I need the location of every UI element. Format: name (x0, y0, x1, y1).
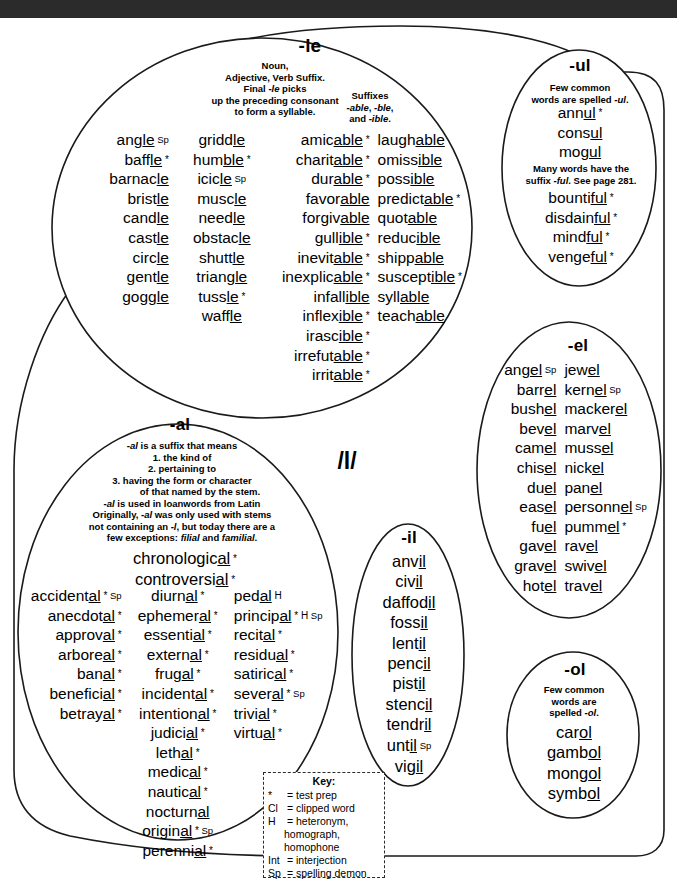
word-entry: carol (515, 722, 633, 742)
word-entry: marvel (564, 419, 662, 439)
word-entry: castle (82, 228, 169, 248)
word-column: amicable *charitable *durable *favorable… (271, 130, 374, 385)
word-entry: triangle (177, 267, 267, 287)
word-entry: lethal * (130, 743, 226, 763)
key-legend: Key: *=test prepCl=clipped wordH=heteron… (263, 772, 385, 878)
group-note-al: -al is a suffix that means1. the kind of… (42, 440, 322, 544)
word-entry: personnel Sp (564, 497, 662, 517)
key-row: homograph, (268, 828, 367, 841)
word-entry: until Sp (350, 735, 468, 756)
group-note-le-suffixes: Suffixes-able, -ble,and -ible. (300, 90, 440, 125)
word-entry: chronological * (60, 548, 310, 569)
word-column: diurnal *ephemeral *essential *external … (126, 586, 230, 860)
word-column: jewelkernel Spmackerelmarvelmusselnickel… (560, 360, 666, 595)
word-entry: susceptible * (378, 267, 474, 287)
word-entry: disdainful * (497, 208, 665, 228)
word-list-ul-ful: bountiful *disdainful *mindful *vengeful… (497, 188, 665, 266)
group-note-ol: Few commonwords arespelled -ol. (515, 684, 633, 719)
word-entry: lentil (350, 633, 468, 653)
word-entry: charitable * (275, 150, 370, 170)
word-entry: possible (378, 169, 474, 189)
word-entry: betrayal * (18, 704, 122, 724)
word-entry: banal * (18, 664, 122, 684)
word-entry: laughable (378, 130, 474, 150)
word-entry: approval * (18, 625, 122, 645)
word-entry: bevel (470, 419, 556, 439)
word-entry: duel (470, 478, 556, 498)
key-row: *=test prep (268, 789, 367, 802)
key-row: H=heteronym, (268, 815, 367, 828)
word-entry: quotable (378, 208, 474, 228)
word-entry: mongol (515, 763, 633, 783)
group-title-ol: -ol (530, 660, 620, 680)
word-entry: amicable * (275, 130, 370, 150)
word-entry: easel (470, 497, 556, 517)
word-entry: barnacle (82, 169, 169, 189)
word-entry: waffle (177, 306, 267, 326)
word-entry: chisel (470, 458, 556, 478)
word-entry: goggle (82, 287, 169, 307)
word-entry: gambol (515, 742, 633, 762)
word-entry: civil (350, 571, 468, 591)
word-entry: incidental * (130, 684, 226, 704)
word-entry: symbol (515, 783, 633, 803)
word-entry: hotel (470, 576, 556, 596)
word-list-al-top: chronological *controversial * (60, 548, 310, 591)
word-entry: shuttle (177, 248, 267, 268)
word-entry: inflexible * (275, 306, 370, 326)
word-entry: muscle (177, 189, 267, 209)
word-column: griddlehumble *icicle Spmuscleneedleobst… (173, 130, 271, 385)
word-entry: tendril (350, 714, 468, 734)
word-entry: medical * (130, 762, 226, 782)
key-row: Cl=clipped word (268, 802, 367, 815)
word-entry: nickel (564, 458, 662, 478)
word-entry: several * Sp (234, 684, 330, 704)
word-entry: needle (177, 208, 267, 228)
word-column: accidental * Spanecdotal *approval *arbo… (14, 586, 126, 860)
word-entry: anecdotal * (18, 606, 122, 626)
word-entry: camel (470, 438, 556, 458)
word-entry: inevitable * (275, 248, 370, 268)
word-entry: mogul (505, 142, 655, 162)
word-entry: bountiful * (497, 188, 665, 208)
word-entry: residual * (234, 645, 330, 665)
word-entry: inexplicable * (275, 267, 370, 287)
word-entry: favorable (275, 189, 370, 209)
word-entry: anvil (350, 551, 468, 571)
word-entry: candle (82, 208, 169, 228)
word-list-ol: carolgambolmongolsymbol (515, 722, 633, 804)
group-title-il: -il (378, 528, 440, 548)
word-entry: fossil (350, 612, 468, 632)
key-row: Int=interjection (268, 854, 367, 867)
word-entry: syllable (378, 287, 474, 307)
word-entry: jewel (564, 360, 662, 380)
key-row: homophone (268, 841, 367, 854)
word-entry: gentle (82, 267, 169, 287)
word-entry: beneficial * (18, 684, 122, 704)
word-entry: gavel (470, 536, 556, 556)
word-entry: griddle (177, 130, 267, 150)
word-entry: trivial * (234, 704, 330, 724)
word-entry: travel (564, 576, 662, 596)
word-entry: mindful * (497, 227, 665, 247)
word-entry: pummel * (564, 517, 662, 537)
word-entry: mackerel (564, 399, 662, 419)
word-entry: principal * H Sp (234, 606, 330, 626)
word-entry: irascible * (275, 326, 370, 346)
word-entry: bushel (470, 399, 556, 419)
key-row: Sp=spelling demon (268, 867, 367, 880)
word-entry: bristle (82, 189, 169, 209)
word-entry: accidental * Sp (18, 586, 122, 606)
word-entry: pencil (350, 653, 468, 673)
word-entry: fuel (470, 517, 556, 537)
word-entry: nocturnal (130, 802, 226, 822)
word-entry: nautical * (130, 782, 226, 802)
word-entry: gravel (470, 556, 556, 576)
word-entry: tussle * (177, 287, 267, 307)
word-entry: angel Sp (470, 360, 556, 380)
suffix-spelling-diagram: -le Noun,Adjective, Verb Suffix.Final -l… (0, 0, 677, 889)
word-entry: ephemeral * (130, 606, 226, 626)
word-entry: teachable (378, 306, 474, 326)
group-title-al: -al (138, 415, 222, 435)
group-title-le: -le (230, 36, 390, 56)
